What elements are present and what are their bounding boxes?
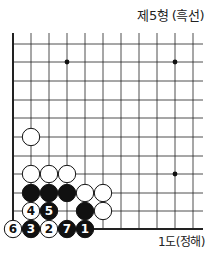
move-number: 1 bbox=[81, 222, 89, 236]
go-board: 4563271 bbox=[0, 0, 213, 253]
white-stone bbox=[58, 165, 75, 182]
black-stone: 1 bbox=[76, 220, 93, 237]
white-stone bbox=[22, 128, 39, 145]
black-stone: 5 bbox=[40, 202, 57, 219]
stone-disc bbox=[40, 184, 57, 201]
move-number: 2 bbox=[45, 222, 53, 236]
white-stone bbox=[40, 165, 57, 182]
star-point bbox=[65, 60, 70, 65]
move-number: 7 bbox=[63, 222, 71, 236]
stone-disc bbox=[58, 184, 75, 201]
white-stone: 4 bbox=[22, 202, 39, 219]
stone-disc bbox=[22, 184, 39, 201]
stone-disc bbox=[40, 165, 57, 182]
stone-disc bbox=[22, 128, 39, 145]
black-stone bbox=[22, 184, 39, 201]
black-stone bbox=[40, 184, 57, 201]
stone-disc bbox=[58, 165, 75, 182]
stone-disc bbox=[94, 184, 111, 201]
stone-disc bbox=[22, 165, 39, 182]
white-stone bbox=[76, 184, 93, 201]
white-stone bbox=[94, 202, 111, 219]
move-number: 3 bbox=[27, 222, 35, 236]
white-stone bbox=[94, 184, 111, 201]
white-stone bbox=[22, 165, 39, 182]
move-number: 4 bbox=[27, 204, 35, 218]
stone-disc bbox=[76, 184, 93, 201]
diagram-caption: 1도(정해) bbox=[158, 232, 205, 249]
move-number: 6 bbox=[9, 222, 17, 236]
white-stone: 6 bbox=[4, 220, 21, 237]
stone-disc bbox=[94, 202, 111, 219]
stone-disc bbox=[76, 202, 93, 219]
black-stone bbox=[76, 202, 93, 219]
black-stone: 7 bbox=[58, 220, 75, 237]
black-stone: 3 bbox=[22, 220, 39, 237]
stones-layer: 4563271 bbox=[4, 128, 111, 237]
move-number: 5 bbox=[45, 204, 53, 218]
star-point bbox=[173, 172, 178, 177]
black-stone bbox=[58, 184, 75, 201]
white-stone: 2 bbox=[40, 220, 57, 237]
star-point bbox=[173, 60, 178, 65]
